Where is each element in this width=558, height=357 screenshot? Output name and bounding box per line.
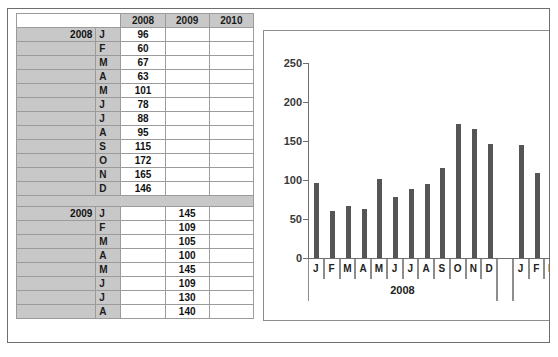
row-group-year-label[interactable]: 2009: [17, 207, 96, 221]
value-cell-2009[interactable]: [165, 168, 209, 182]
value-cell-2008[interactable]: 63: [121, 70, 165, 84]
value-cell-2008[interactable]: 165: [121, 168, 165, 182]
row-month-label[interactable]: J: [96, 112, 121, 126]
row-month-label[interactable]: J: [96, 277, 121, 291]
value-cell-2008[interactable]: 78: [121, 98, 165, 112]
bar[interactable]: [472, 129, 477, 258]
value-cell-2008[interactable]: [121, 305, 165, 319]
bar[interactable]: [393, 197, 398, 258]
row-month-label[interactable]: J: [96, 291, 121, 305]
value-cell-2008[interactable]: [121, 249, 165, 263]
value-cell-2008[interactable]: 88: [121, 112, 165, 126]
value-cell-2008[interactable]: 67: [121, 56, 165, 70]
row-month-label[interactable]: O: [96, 154, 121, 168]
value-cell-2010[interactable]: [209, 98, 253, 112]
value-cell-2010[interactable]: [209, 84, 253, 98]
value-cell-2009[interactable]: [165, 98, 209, 112]
value-cell-2008[interactable]: [121, 221, 165, 235]
value-cell-2010[interactable]: [209, 277, 253, 291]
bar[interactable]: [488, 144, 493, 258]
value-cell-2010[interactable]: [209, 291, 253, 305]
row-month-label[interactable]: S: [96, 140, 121, 154]
row-month-label[interactable]: N: [96, 168, 121, 182]
value-cell-2010[interactable]: [209, 42, 253, 56]
value-cell-2010[interactable]: [209, 235, 253, 249]
row-month-label[interactable]: J: [96, 28, 121, 42]
bar[interactable]: [440, 168, 445, 258]
value-cell-2008[interactable]: 115: [121, 140, 165, 154]
bar[interactable]: [314, 183, 319, 258]
value-cell-2008[interactable]: [121, 291, 165, 305]
bar[interactable]: [456, 124, 461, 258]
bar[interactable]: [330, 211, 335, 258]
bar[interactable]: [535, 173, 540, 258]
row-month-label[interactable]: A: [96, 305, 121, 319]
row-month-label[interactable]: D: [96, 182, 121, 196]
value-cell-2009[interactable]: 100: [165, 249, 209, 263]
row-month-label[interactable]: J: [96, 207, 121, 221]
value-cell-2009[interactable]: 109: [165, 221, 209, 235]
value-cell-2008[interactable]: 172: [121, 154, 165, 168]
value-cell-2010[interactable]: [209, 70, 253, 84]
value-cell-2009[interactable]: [165, 140, 209, 154]
value-cell-2010[interactable]: [209, 154, 253, 168]
row-month-label[interactable]: M: [96, 263, 121, 277]
column-header-2008[interactable]: 2008: [121, 14, 165, 28]
value-cell-2009[interactable]: [165, 42, 209, 56]
row-month-label[interactable]: F: [96, 42, 121, 56]
value-cell-2009[interactable]: 140: [165, 305, 209, 319]
row-month-label[interactable]: J: [96, 98, 121, 112]
value-cell-2008[interactable]: 95: [121, 126, 165, 140]
row-month-label[interactable]: M: [96, 235, 121, 249]
value-cell-2008[interactable]: 146: [121, 182, 165, 196]
row-month-label[interactable]: M: [96, 56, 121, 70]
row-month-label[interactable]: A: [96, 70, 121, 84]
value-cell-2008[interactable]: 101: [121, 84, 165, 98]
value-cell-2010[interactable]: [209, 112, 253, 126]
value-cell-2009[interactable]: [165, 84, 209, 98]
value-cell-2009[interactable]: [165, 70, 209, 84]
bar[interactable]: [377, 179, 382, 258]
bar[interactable]: [425, 184, 430, 258]
table-row: 2008D146: [17, 182, 254, 196]
bar[interactable]: [346, 206, 351, 258]
value-cell-2010[interactable]: [209, 182, 253, 196]
row-group-year-label[interactable]: 2008: [17, 28, 96, 42]
value-cell-2009[interactable]: 109: [165, 277, 209, 291]
value-cell-2009[interactable]: 145: [165, 263, 209, 277]
value-cell-2009[interactable]: 130: [165, 291, 209, 305]
bar[interactable]: [362, 209, 367, 258]
value-cell-2010[interactable]: [209, 56, 253, 70]
row-month-label[interactable]: F: [96, 221, 121, 235]
value-cell-2009[interactable]: 145: [165, 207, 209, 221]
row-month-label[interactable]: A: [96, 249, 121, 263]
value-cell-2009[interactable]: [165, 154, 209, 168]
value-cell-2010[interactable]: [209, 249, 253, 263]
row-month-label[interactable]: A: [96, 126, 121, 140]
value-cell-2010[interactable]: [209, 207, 253, 221]
row-month-label[interactable]: M: [96, 84, 121, 98]
value-cell-2008[interactable]: 96: [121, 28, 165, 42]
value-cell-2009[interactable]: [165, 126, 209, 140]
bar[interactable]: [519, 145, 524, 258]
value-cell-2009[interactable]: [165, 182, 209, 196]
value-cell-2009[interactable]: [165, 56, 209, 70]
column-header-2009[interactable]: 2009: [165, 14, 209, 28]
value-cell-2008[interactable]: [121, 235, 165, 249]
value-cell-2008[interactable]: [121, 277, 165, 291]
value-cell-2008[interactable]: [121, 207, 165, 221]
value-cell-2009[interactable]: [165, 28, 209, 42]
value-cell-2009[interactable]: 105: [165, 235, 209, 249]
value-cell-2008[interactable]: 60: [121, 42, 165, 56]
value-cell-2010[interactable]: [209, 305, 253, 319]
value-cell-2009[interactable]: [165, 112, 209, 126]
value-cell-2010[interactable]: [209, 28, 253, 42]
value-cell-2008[interactable]: [121, 263, 165, 277]
value-cell-2010[interactable]: [209, 126, 253, 140]
value-cell-2010[interactable]: [209, 263, 253, 277]
value-cell-2010[interactable]: [209, 168, 253, 182]
bar[interactable]: [409, 189, 414, 258]
value-cell-2010[interactable]: [209, 140, 253, 154]
column-header-2010[interactable]: 2010: [209, 14, 253, 28]
value-cell-2010[interactable]: [209, 221, 253, 235]
